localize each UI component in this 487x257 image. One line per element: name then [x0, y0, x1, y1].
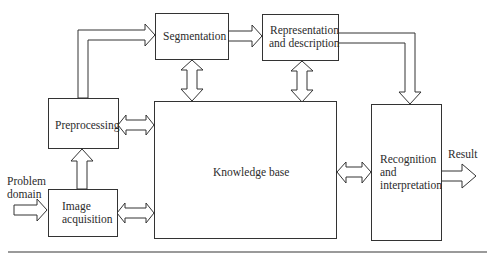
arrow-segmentation-to-representation: [228, 25, 262, 47]
arrow-kb-preprocessing: [118, 115, 154, 135]
preprocessing-label: Preprocessing: [55, 119, 120, 132]
knowledge-base-box: Knowledge base: [154, 101, 337, 239]
problem-domain-label-line1: Problem: [7, 175, 46, 188]
representation-label-line2: and description: [269, 37, 340, 50]
arrow-kb-acquisition: [117, 203, 154, 223]
representation-label-line1: Representation: [270, 24, 339, 37]
arrow-representation-to-recognition: [338, 33, 421, 104]
arrow-kb-segmentation: [181, 60, 203, 101]
recognition-label-line2: and: [380, 166, 397, 179]
arrow-preprocessing-to-segmentation: [78, 24, 155, 98]
representation-box: Representation and description: [262, 14, 339, 61]
arrow-kb-representation: [291, 61, 313, 102]
recognition-label-line3: interpretation: [380, 179, 442, 192]
arrow-acquisition-to-preprocessing: [71, 149, 93, 189]
arrow-kb-recognition: [337, 162, 371, 183]
arrow-result-output: [441, 164, 476, 188]
recognition-label-line1: Recognition: [380, 153, 436, 166]
segmentation-box: Segmentation: [155, 13, 229, 60]
result-label: Result: [448, 148, 477, 161]
image-acquisition-box: Image acquisition: [48, 189, 118, 237]
preprocessing-box: Preprocessing: [48, 98, 119, 149]
segmentation-label: Segmentation: [163, 30, 226, 43]
problem-domain-label-line2: domain: [7, 188, 42, 201]
image-acquisition-label-line2: acquisition: [62, 213, 112, 226]
bottom-divider: [8, 251, 487, 253]
knowledge-base-label: Knowledge base: [213, 166, 289, 179]
image-acquisition-label-line1: Image: [62, 200, 91, 213]
recognition-box: Recognition and interpretation: [371, 104, 442, 241]
arrow-problem-domain-input: [14, 199, 47, 221]
